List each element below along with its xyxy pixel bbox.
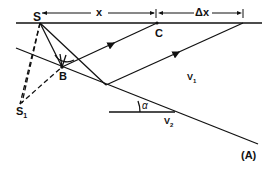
label-velocity-upper: V1 xyxy=(187,73,196,84)
label-point-c: C xyxy=(155,28,163,39)
label-image-source: S1 xyxy=(16,106,27,119)
label-offset: x xyxy=(96,7,102,18)
ray-b-to-c xyxy=(62,23,157,67)
label-velocity-lower: V2 xyxy=(164,117,173,128)
label-dip-angle: α xyxy=(142,101,148,111)
diagram-lines xyxy=(0,0,276,174)
label-source: S xyxy=(33,11,41,23)
ray-s-to-refractor xyxy=(40,23,106,85)
label-panel: (A) xyxy=(241,150,256,161)
label-reflection-point: B xyxy=(59,71,67,82)
alpha-arc xyxy=(138,101,140,112)
ray-s-to-b xyxy=(40,23,62,67)
dashed-s1-to-b xyxy=(20,67,62,104)
label-offset-increment: Δx xyxy=(195,7,209,18)
refraction-diagram: S x Δx C B S1 V1 V2 α (A) xyxy=(0,0,276,174)
ray-refractor-to-surface xyxy=(106,23,243,85)
dipping-interface xyxy=(16,48,258,144)
